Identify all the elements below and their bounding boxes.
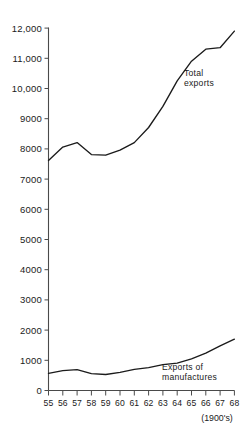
- y-tick-labels: 0 1000 2000 3000 4000 5000 6000 7000 800…: [12, 23, 42, 396]
- y-tick-label: 11,000: [12, 53, 42, 64]
- x-tick-label: 55: [44, 398, 54, 408]
- x-tick-label: 65: [187, 398, 197, 408]
- manufactures-annotation: Exports of manufactures: [162, 362, 217, 382]
- x-tick-labels: 55 56 57 58 59 60 61 62 63 64 65 66 67 6…: [44, 398, 240, 408]
- y-tick-label: 7000: [20, 174, 42, 185]
- x-tick-label: 66: [201, 398, 211, 408]
- x-tick-label: 58: [87, 398, 97, 408]
- y-tick-label: 4000: [20, 264, 42, 275]
- y-tick-label: 2000: [20, 325, 42, 336]
- era-note-label: (1900's): [201, 413, 233, 423]
- x-tick-label: 64: [172, 398, 182, 408]
- y-tick-label: 9000: [20, 113, 42, 124]
- x-tick-label: 68: [230, 398, 240, 408]
- line-chart-svg: 0 1000 2000 3000 4000 5000 6000 7000 800…: [0, 0, 252, 431]
- x-tick-label: 60: [115, 398, 125, 408]
- x-tick-label: 61: [129, 398, 139, 408]
- x-tick-label: 56: [58, 398, 68, 408]
- y-tick-marks: [45, 28, 49, 390]
- y-tick-label: 10,000: [12, 83, 42, 94]
- x-tick-marks: [49, 391, 235, 396]
- manufactures-label-line2: manufactures: [162, 372, 217, 382]
- x-tick-label: 67: [215, 398, 225, 408]
- y-tick-label: 0: [37, 385, 42, 396]
- x-tick-label: 63: [158, 398, 168, 408]
- chart-container: 0 1000 2000 3000 4000 5000 6000 7000 800…: [0, 0, 252, 431]
- y-tick-label: 3000: [20, 294, 42, 305]
- x-tick-label: 62: [144, 398, 154, 408]
- y-tick-label: 12,000: [12, 23, 42, 34]
- y-tick-label: 5000: [20, 234, 42, 245]
- y-tick-label: 8000: [20, 143, 42, 154]
- series-line-total-exports: [49, 31, 235, 161]
- x-tick-label: 57: [72, 398, 82, 408]
- total-exports-label-line1: Total: [184, 68, 203, 78]
- y-tick-label: 6000: [20, 204, 42, 215]
- total-exports-annotation: Total exports: [184, 68, 214, 88]
- total-exports-label-line2: exports: [184, 78, 214, 88]
- x-tick-label: 59: [101, 398, 111, 408]
- series-line-exports-of-manufactures: [49, 339, 235, 374]
- manufactures-label-line1: Exports of: [162, 362, 204, 372]
- y-tick-label: 1000: [20, 355, 42, 366]
